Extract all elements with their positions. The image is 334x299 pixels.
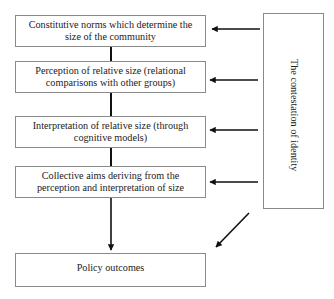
arrow-diagonal-to-outcome (216, 213, 249, 247)
connector-layer (0, 0, 334, 299)
